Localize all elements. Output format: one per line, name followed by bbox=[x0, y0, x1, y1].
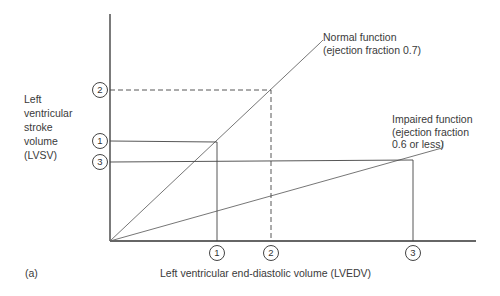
y-axis-label-line: volume bbox=[24, 134, 72, 148]
point-3-guide bbox=[110, 160, 413, 241]
impaired-label-line: (ejection fraction bbox=[392, 126, 473, 139]
normal-label-line: (ejection fraction 0.7) bbox=[323, 44, 421, 57]
y-axis-label-line: Left bbox=[24, 92, 72, 106]
y-marker-3: 3 bbox=[92, 154, 108, 170]
y-marker-2: 2 bbox=[92, 82, 108, 98]
impaired-function-label: Impaired function (ejection fraction 0.6… bbox=[392, 113, 473, 151]
y-axis-label: Left ventricular stroke volume (LVSV) bbox=[24, 92, 72, 162]
impaired-label-line: Impaired function bbox=[392, 113, 473, 126]
x-marker-3: 3 bbox=[405, 245, 421, 261]
y-axis-label-line: (LVSV) bbox=[24, 148, 72, 162]
x-marker-2: 2 bbox=[263, 245, 279, 261]
y-axis-label-line: stroke bbox=[24, 120, 72, 134]
panel-label: (a) bbox=[25, 267, 38, 280]
y-marker-1: 1 bbox=[92, 133, 108, 149]
y-axis-label-line: ventricular bbox=[24, 106, 72, 120]
impaired-label-line: 0.6 or less) bbox=[392, 138, 473, 151]
x-axis-label: Left ventricular end-diastolic volume (L… bbox=[160, 267, 371, 280]
normal-label-line: Normal function bbox=[323, 31, 421, 44]
x-marker-1: 1 bbox=[209, 245, 225, 261]
normal-function-label: Normal function (ejection fraction 0.7) bbox=[323, 31, 421, 56]
